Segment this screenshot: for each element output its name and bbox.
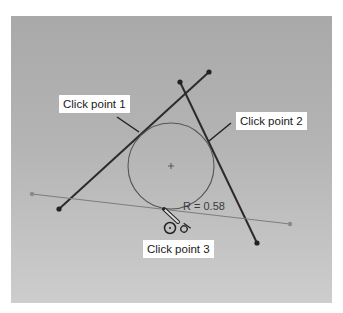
line-2-endpoint[interactable] bbox=[254, 240, 259, 245]
sketch-geometry bbox=[0, 0, 343, 313]
tangent-constraint-icon bbox=[179, 223, 190, 234]
callout-2-leader bbox=[209, 123, 231, 141]
line-3-endpoint[interactable] bbox=[288, 222, 292, 226]
radius-dimension[interactable]: R = 0.58 bbox=[183, 200, 225, 212]
line-1-endpoint[interactable] bbox=[206, 69, 211, 74]
line-2-endpoint[interactable] bbox=[177, 79, 182, 84]
line-1-endpoint[interactable] bbox=[56, 206, 61, 211]
callout-click-point-2: Click point 2 bbox=[236, 112, 307, 130]
sketch-line-3[interactable] bbox=[32, 194, 290, 224]
tangent-cursor-icon bbox=[165, 223, 176, 234]
line-3-endpoint[interactable] bbox=[30, 192, 34, 196]
callout-click-point-1: Click point 1 bbox=[59, 95, 130, 113]
callout-1-leader bbox=[117, 117, 139, 132]
callout-click-point-3: Click point 3 bbox=[143, 240, 214, 258]
